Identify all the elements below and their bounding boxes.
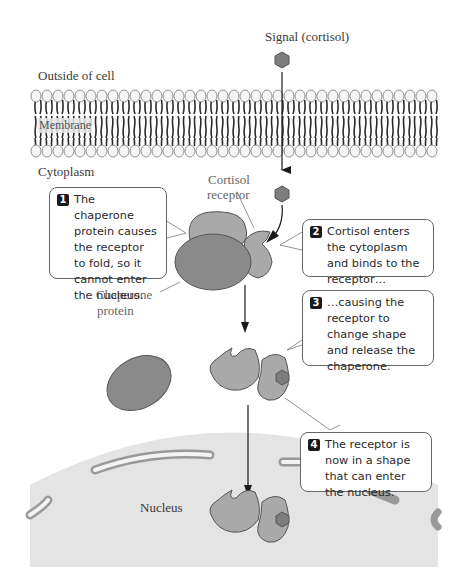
step-text-1: The chaperone protein causes the recepto… [74, 193, 157, 302]
chaperone-receptor-complex [175, 212, 272, 333]
chaperone-label-line2: protein [97, 303, 134, 318]
cortisol-molecule-cytoplasm [275, 186, 289, 202]
cell-membrane [31, 90, 438, 157]
nucleus-label: Nucleus [140, 500, 183, 515]
step-badge-4: 4 [308, 439, 320, 451]
outside-of-cell-label: Outside of cell [38, 68, 115, 83]
cortisol-receptor-label-line1: Cortisol [208, 172, 250, 187]
callout-step-4: 4 The receptor is now in a shape that ca… [300, 432, 432, 492]
released-chaperone [97, 344, 181, 421]
cytoplasm-label: Cytoplasm [38, 164, 94, 179]
step-text-2: Cortisol enters the cytoplasm and binds … [327, 225, 419, 286]
step-badge-3: 3 [310, 297, 322, 309]
callout-step-2: 2 Cortisol enters the cytoplasm and bind… [302, 219, 434, 277]
step-text-4: The receptor is now in a shape that can … [325, 438, 410, 499]
step-badge-2: 2 [310, 226, 322, 238]
step-text-3: …causing the receptor to change shape an… [327, 296, 415, 373]
callout-step-1: 1 The chaperone protein causes the recep… [49, 187, 167, 279]
step-badge-1: 1 [57, 194, 69, 206]
membrane-label: Membrane [38, 118, 92, 133]
cortisol-receptor-label-line2: receptor [207, 187, 250, 202]
cortisol-molecule-outside [275, 52, 289, 68]
callout-step-3: 3 …causing the receptor to change shape … [302, 290, 434, 366]
signal-label: Signal (cortisol) [265, 29, 349, 44]
